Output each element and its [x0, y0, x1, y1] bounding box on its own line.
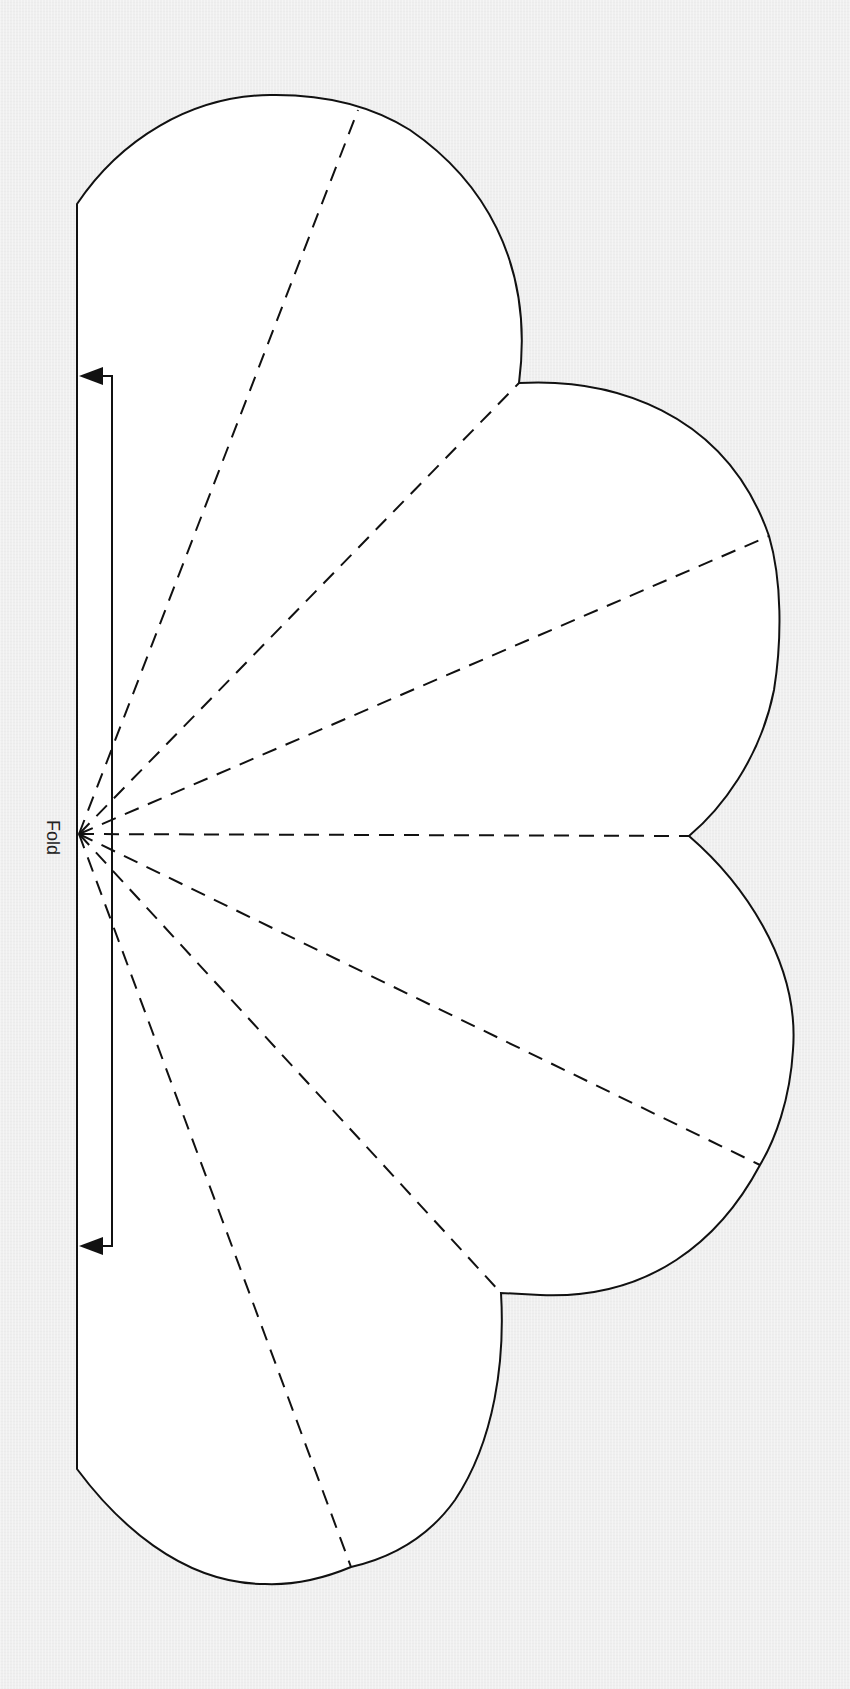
pattern-diagram: Fold — [0, 0, 850, 1689]
pattern-piece-outline — [77, 95, 794, 1584]
fold-label: Fold — [43, 820, 63, 855]
pattern-canvas: Fold — [0, 0, 850, 1689]
